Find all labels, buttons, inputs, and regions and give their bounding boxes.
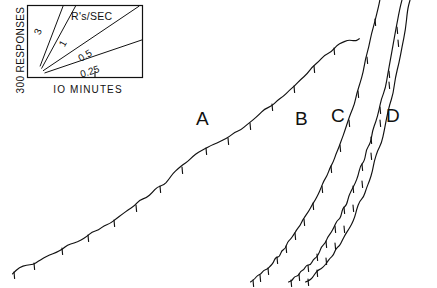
reinforcement-pip bbox=[353, 186, 354, 193]
reinforcement-pip bbox=[389, 82, 390, 89]
curve-c bbox=[289, 0, 402, 282]
curve-label-b: B bbox=[295, 108, 308, 130]
reinforcement-pip bbox=[367, 57, 368, 64]
reinforcement-pip bbox=[397, 27, 398, 34]
reinforcement-pip bbox=[331, 166, 332, 173]
reinforcement-pip bbox=[260, 275, 261, 282]
cumulative-curves bbox=[12, 0, 410, 286]
reinforcement-pip bbox=[313, 203, 314, 210]
reinforcement-pip bbox=[362, 181, 363, 188]
reinforcement-pip bbox=[62, 248, 63, 255]
y-axis-label: 300 RESPONSES bbox=[15, 12, 26, 94]
reinforcement-pip bbox=[228, 138, 229, 145]
reinforcement-pip bbox=[317, 254, 318, 261]
reinforcement-pip bbox=[322, 186, 323, 193]
reinforcement-pip bbox=[294, 86, 295, 93]
reinforcement-pip bbox=[314, 66, 315, 73]
reinforcement-pip bbox=[88, 235, 89, 242]
reinforcement-pip bbox=[344, 226, 345, 233]
curve-b bbox=[251, 0, 380, 282]
reinforcement-pip bbox=[308, 265, 309, 272]
reinforcement-pip bbox=[344, 207, 345, 214]
curve-label-d: D bbox=[386, 105, 400, 127]
reinforcement-pip bbox=[349, 120, 350, 127]
reinforcement-pip bbox=[375, 19, 376, 26]
reinforcement-pip bbox=[326, 258, 327, 265]
x-axis-label: IO MINUTES bbox=[38, 84, 138, 95]
reinforcement-pip bbox=[362, 164, 363, 171]
legend-title: R's/SEC bbox=[71, 10, 112, 22]
reinforcement-pip bbox=[295, 233, 296, 240]
reinforcement-pip bbox=[160, 186, 161, 193]
reinforcement-pip bbox=[286, 246, 287, 253]
reinforcement-pip bbox=[358, 91, 359, 98]
reinforcement-pip bbox=[250, 123, 251, 130]
reinforcement-pip bbox=[304, 219, 305, 226]
reinforcement-pip bbox=[308, 279, 309, 286]
reinforcement-pip bbox=[334, 48, 335, 55]
cumulative-record-figure: R's/SEC 300 RESPONSES IO MINUTES 3 1 0.5… bbox=[0, 0, 437, 288]
curve-label-c: C bbox=[331, 105, 345, 127]
curve-d bbox=[306, 0, 410, 282]
reinforcement-pip bbox=[398, 40, 399, 47]
reinforcement-pip bbox=[182, 167, 183, 174]
reinforcement-pip bbox=[353, 205, 354, 212]
reinforcement-pip bbox=[277, 257, 278, 264]
reinforcement-pip bbox=[371, 153, 372, 160]
reinforcement-pip bbox=[340, 145, 341, 152]
reinforcement-pip bbox=[272, 104, 273, 111]
reinforcement-pip bbox=[206, 148, 207, 155]
reinforcement-pip bbox=[136, 205, 137, 212]
reinforcement-pip bbox=[34, 263, 35, 270]
reinforcement-pip bbox=[253, 280, 254, 287]
reinforcement-pip bbox=[371, 137, 372, 144]
reinforcement-pip bbox=[268, 268, 269, 275]
curve-a bbox=[12, 39, 359, 274]
reinforcement-pip bbox=[114, 220, 115, 227]
reinforcement-pip bbox=[326, 241, 327, 248]
reinforcement-pip bbox=[380, 120, 381, 127]
reinforcement-pip bbox=[291, 280, 292, 287]
curve-label-a: A bbox=[196, 108, 209, 130]
reinforcement-pip bbox=[299, 274, 300, 281]
reinforcement-pip bbox=[335, 226, 336, 233]
reinforcement-pip bbox=[317, 270, 318, 277]
reinforcement-pip bbox=[380, 107, 381, 114]
reinforcement-pip bbox=[389, 71, 390, 78]
reinforcement-pip bbox=[335, 243, 336, 250]
reinforcement-pip bbox=[14, 272, 15, 279]
